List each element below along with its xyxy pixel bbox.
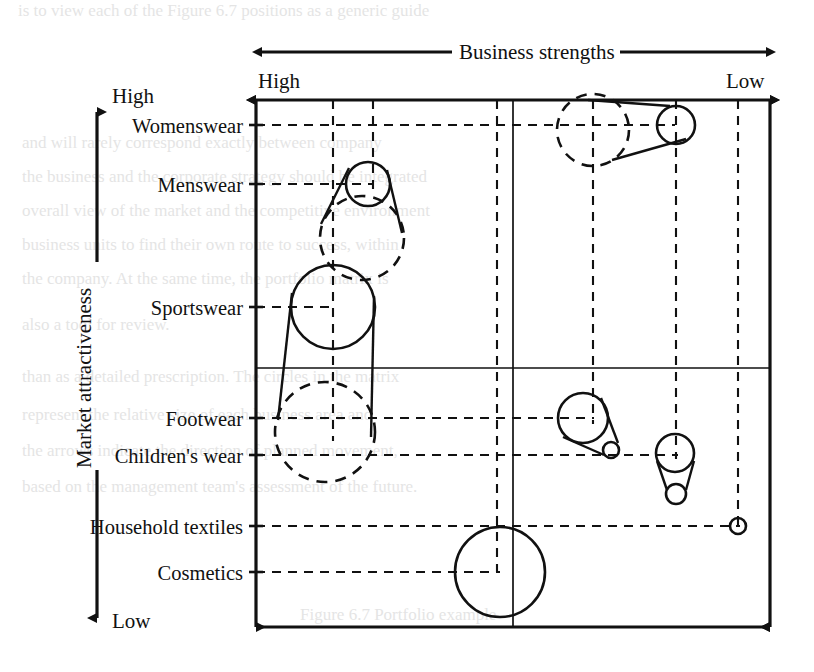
y-axis-title: Market attractiveness <box>72 288 96 468</box>
x-axis-low-label: Low <box>726 69 765 93</box>
row-label-cosmetics: Cosmetics <box>158 562 243 584</box>
bleed-line-1: is to view each of the Figure 6.7 positi… <box>18 1 429 20</box>
row-label-sportswear: Sportswear <box>151 297 243 320</box>
bubble-sportswear-current[interactable] <box>275 382 375 482</box>
row-label-menswear: Menswear <box>158 174 244 196</box>
row-label-womenswear: Womenswear <box>132 115 243 137</box>
row-label-childrens-wear: Children's wear <box>115 445 244 467</box>
x-axis-title: Business strengths <box>459 40 615 64</box>
portfolio-matrix-chart: is to view each of the Figure 6.7 positi… <box>0 0 814 672</box>
bleed-line-5: business units to find their own route t… <box>22 235 399 254</box>
row-label-footwear: Footwear <box>166 408 244 430</box>
bubble-group-womenswear[interactable] <box>557 94 695 166</box>
y-axis-high-label: High <box>112 84 155 108</box>
bubble-childrens-wear-future[interactable] <box>666 484 686 504</box>
bleed-line-11: based on the management team's assessmen… <box>22 477 417 496</box>
x-axis-high-label: High <box>258 69 301 93</box>
bleed-line-12: Figure 6.7 Portfolio example <box>300 605 496 624</box>
row-label-household-textiles: Household textiles <box>90 516 243 538</box>
bubble-group-footwear[interactable] <box>558 393 619 458</box>
figure-canvas: is to view each of the Figure 6.7 positi… <box>0 0 814 672</box>
bleed-line-4: overall view of the market and the compe… <box>22 201 430 220</box>
y-axis-low-label: Low <box>112 609 151 633</box>
